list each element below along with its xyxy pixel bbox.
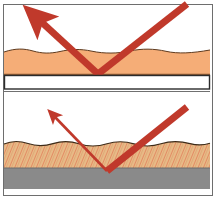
rough-hatched-layer <box>4 141 210 168</box>
diffuse-reflection-panel: Rough textured surface: weak attenuated … <box>0 96 219 198</box>
specular-panel-graphic <box>0 0 219 96</box>
gray-substrate-layer <box>4 168 210 189</box>
specular-reflection-panel: Smooth surface: strong specular reflecti… <box>0 0 219 96</box>
reflection-diagram-figure: Smooth surface: strong specular reflecti… <box>0 0 219 198</box>
white-callout-box <box>5 76 210 90</box>
gray-substrate-body <box>4 168 210 189</box>
diffuse-panel-graphic <box>0 96 219 198</box>
